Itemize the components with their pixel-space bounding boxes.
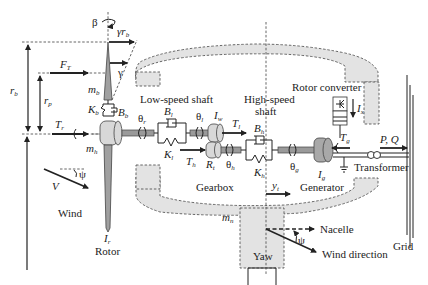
I-x-symbol: Ix [356, 102, 365, 116]
theta-g-symbol: θg [290, 160, 299, 174]
T-l-symbol: Tl [232, 117, 240, 131]
rotor-converter-housing [364, 82, 379, 124]
high-speed-shaft-gear-side [221, 147, 241, 153]
beta-symbol: β [92, 16, 98, 28]
low-speed-shaft-label: Low-speed shaft [140, 93, 213, 105]
T-r-symbol: Tr [55, 118, 64, 132]
gamma-symbol: γ [117, 66, 123, 78]
high-speed-spring-damper [241, 136, 278, 163]
R-t-symbol: Rt [205, 158, 216, 172]
gearbox-label: Gearbox [196, 181, 234, 193]
generator-label: Generator [300, 181, 344, 193]
B-b-symbol: Bb [118, 106, 129, 120]
low-speed-spring-damper [154, 119, 190, 146]
m-h-symbol: mh [86, 142, 98, 156]
F-T-symbol: FT [59, 58, 72, 72]
I-w-symbol: Iw [213, 109, 223, 123]
B-h-symbol: Bh [254, 122, 265, 136]
gear-wheel-large [208, 124, 224, 142]
yaw-base: Yaw [240, 208, 284, 285]
rotor-converter-label: Rotor converter [292, 81, 362, 93]
I-r-symbol: Ir [103, 232, 111, 246]
gear-wheel-small [206, 142, 222, 158]
high-speed-shaft-label-1: High-speed [244, 93, 295, 105]
wind-turbine-diagram: Yaw rb rp FT Tr β γrb γ mb [0, 0, 428, 285]
high-speed-shaft-generator-side [278, 147, 316, 153]
T-g-symbol: Tg [340, 131, 350, 145]
psi-wind-symbol: ψ [79, 168, 86, 180]
housing-left-block-bottom [136, 165, 160, 189]
T-h-symbol: Th [186, 155, 196, 169]
K-l-symbol: Kl [163, 148, 173, 162]
transformer-label: Transformer [354, 161, 409, 173]
hub [92, 121, 122, 145]
high-speed-shaft-label-2: shaft [255, 105, 276, 117]
B-l-symbol: Bl [164, 105, 173, 119]
wind-angle-arc [74, 170, 77, 177]
gamma-r-b-symbol: γrb [117, 25, 130, 39]
K-b-symbol: Kb [87, 103, 99, 117]
K-h-symbol: Kh [253, 166, 265, 180]
theta-l-symbol: θl [196, 110, 203, 124]
nacelle-label: Nacelle [320, 223, 354, 235]
grid-label: Grid [393, 240, 414, 252]
V-symbol: V [52, 180, 60, 192]
m-b-symbol: mb [88, 83, 100, 97]
rotor-label: Rotor [95, 245, 120, 257]
generator [314, 138, 333, 162]
dimension-lines [22, 42, 108, 270]
yaw-label: Yaw [253, 250, 273, 262]
pitch-rotation-icon [102, 19, 115, 27]
theta-r-symbol: θr [138, 112, 146, 126]
blade-spring-damper [101, 100, 117, 116]
I-g-symbol: Ig [317, 168, 326, 182]
r-p-symbol: rp [44, 94, 52, 108]
psi-yaw-symbol: ψ [298, 234, 305, 246]
P-Q-label: P, Q [379, 133, 399, 145]
y-t-symbol: yt [271, 179, 280, 193]
r-b-symbol: rb [10, 84, 18, 98]
wind-label: Wind [58, 207, 82, 219]
housing-left-block-top [136, 72, 160, 86]
wind-direction-label: Wind direction [322, 248, 388, 260]
theta-h-symbol: θh [226, 158, 235, 172]
lower-blade [104, 145, 112, 232]
yaw-angle-arc [294, 231, 297, 242]
